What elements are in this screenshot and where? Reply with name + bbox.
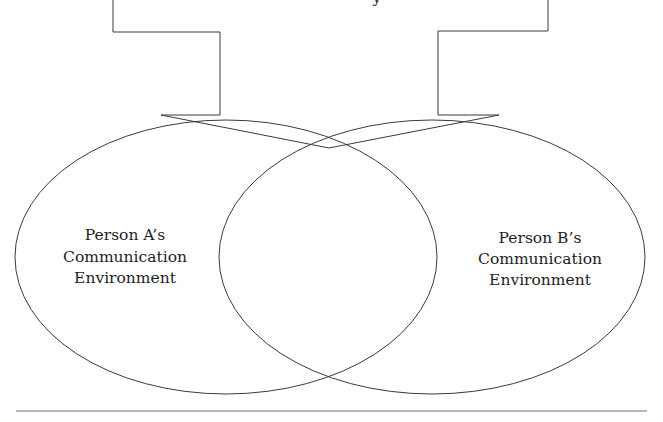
communication-environment-diagram: y Person A’s Communication Environment P… [0, 0, 663, 422]
person-b-line-2: Communication [478, 250, 602, 268]
person-b-label: Person B’s Communication Environment [478, 229, 602, 289]
person-a-line-2: Communication [63, 248, 187, 266]
arrow-shape [113, 0, 548, 148]
person-b-line-1: Person B’s [499, 229, 582, 247]
person-a-label: Person A’s Communication Environment [63, 226, 187, 287]
person-a-line-1: Person A’s [85, 226, 165, 244]
person-b-line-3: Environment [489, 271, 592, 289]
top-text-fragment: y [372, 0, 382, 7]
person-a-line-3: Environment [74, 269, 177, 287]
